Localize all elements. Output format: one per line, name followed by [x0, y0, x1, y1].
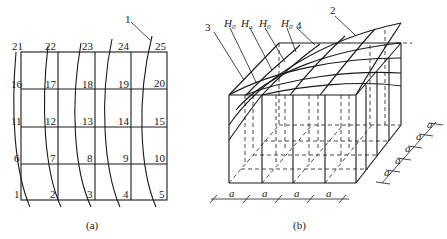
- h-label: H0: [223, 17, 236, 31]
- dim-label: a: [262, 187, 268, 199]
- callout-2: 2: [330, 4, 336, 16]
- node-label: 3: [87, 188, 93, 200]
- node-label: 25: [155, 40, 167, 52]
- node-label: 21: [12, 40, 23, 52]
- node-label: 13: [82, 115, 94, 127]
- figure-canvas: 1 21 22 23 24 25 16 17 18 19 20 11 12 13…: [0, 0, 447, 239]
- dim-label: a: [229, 187, 235, 199]
- node-label: 2: [50, 188, 56, 200]
- caption-a: (a): [86, 219, 99, 232]
- caption-b: (b): [293, 219, 306, 232]
- dim-label: a: [395, 154, 401, 166]
- contour-line: [14, 52, 30, 207]
- dim-label: a: [405, 142, 411, 154]
- node-label: 20: [154, 77, 166, 89]
- callout-1: 1: [125, 13, 131, 25]
- dim-label: a: [326, 187, 332, 199]
- node-label: 24: [118, 40, 130, 52]
- dim-label: a: [427, 118, 433, 130]
- dim-label: a: [416, 130, 422, 142]
- dim-label: a: [384, 166, 390, 178]
- node-label: 11: [11, 115, 22, 127]
- figure-a: 1 21 22 23 24 25 16 17 18 19 20 11 12 13…: [11, 13, 167, 232]
- callout-3: 3: [205, 21, 211, 33]
- node-label: 15: [154, 115, 166, 127]
- node-label: 10: [154, 152, 166, 164]
- h-label: H0: [280, 17, 293, 31]
- h-label: Ha: [240, 17, 253, 31]
- node-label: 4: [123, 188, 129, 200]
- node-label: 9: [123, 152, 129, 164]
- node-label: 19: [118, 78, 130, 90]
- node-label: 22: [45, 40, 56, 52]
- node-label: 1: [14, 188, 20, 200]
- dim-label: a: [294, 187, 300, 199]
- node-label: 14: [118, 115, 130, 127]
- node-label: 8: [87, 152, 93, 164]
- callout-4: 4: [296, 19, 302, 31]
- node-label: 7: [50, 152, 56, 164]
- node-label: 17: [45, 78, 57, 90]
- node-label: 12: [45, 115, 56, 127]
- h-label: H0: [258, 17, 271, 31]
- node-label: 16: [11, 78, 23, 90]
- node-label: 18: [82, 78, 94, 90]
- node-label: 23: [82, 40, 94, 52]
- node-label: 6: [14, 152, 20, 164]
- node-label: 5: [159, 188, 165, 200]
- figure-b: 3 2 4 H0 Ha H0 H0 a a a a a a a a a (b): [205, 4, 443, 232]
